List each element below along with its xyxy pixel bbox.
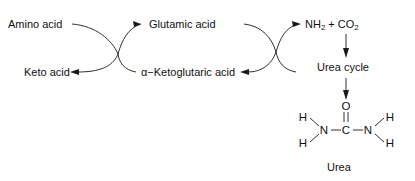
label-urea: Urea — [327, 161, 351, 173]
atom-n-right: N — [363, 124, 373, 136]
arrow-ketoglutaric-to-keto-tail — [118, 54, 136, 72]
label-urea-cycle: Urea cycle — [317, 61, 369, 73]
arrow-amino-to-glutamic-head-curve — [118, 24, 141, 54]
label-co2-subscript: 2 — [354, 23, 358, 32]
label-ketoglutaric-acid: α−Ketoglutaric acid — [141, 66, 235, 78]
label-ammonia-co2: NH2+CO2 — [305, 18, 359, 34]
arrowhead-to-keto-acid — [70, 69, 79, 75]
atom-c-center: C — [341, 124, 351, 136]
label-glutamic-acid: Glutamic acid — [149, 18, 216, 30]
arrowhead-to-urea — [343, 90, 349, 100]
label-amino-acid: Amino acid — [8, 18, 62, 30]
bond-n-h-upper-right — [375, 118, 384, 126]
atom-o-top: O — [341, 100, 351, 112]
arrow-to-ketoglutaric-head-curve — [248, 52, 276, 72]
bond-h-n-lower-left — [310, 134, 319, 142]
atom-n-left: N — [319, 124, 329, 136]
label-plus-sign: + — [325, 18, 337, 30]
bond-h-n-upper-left — [310, 118, 319, 126]
atom-h-top-right: H — [385, 111, 395, 123]
arrow-ketoglutaric-to-keto-head-curve — [78, 54, 118, 72]
arrow-glutamic-to-ammonia-head-curve — [276, 24, 298, 52]
label-co2-text: CO — [338, 18, 355, 30]
label-keto-acid: Keto acid — [24, 66, 70, 78]
arrowhead-to-urea-cycle — [343, 48, 349, 58]
arrow-to-ketoglutaric-tail — [276, 52, 296, 72]
pathway-diagram: Amino acid Keto acid Glutamic acid α−Ket… — [0, 0, 415, 181]
label-ammonia-text: NH — [305, 18, 321, 30]
arrow-amino-to-glutamic-tail — [72, 24, 118, 54]
arrowhead-to-ketoglutaric — [240, 69, 249, 75]
atom-h-top-left: H — [298, 111, 308, 123]
atom-h-bottom-left: H — [298, 137, 308, 149]
arrow-glutamic-to-ammonia-tail — [244, 24, 276, 52]
atom-h-bottom-right: H — [385, 137, 395, 149]
arrowhead-to-glutamic — [133, 21, 141, 27]
arrowhead-to-ammonia — [292, 21, 301, 27]
bond-n-h-lower-right — [375, 134, 384, 142]
